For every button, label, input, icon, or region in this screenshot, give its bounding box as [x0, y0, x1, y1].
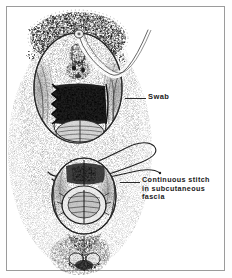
figure-page: Swab Continuous stitch in subcutaneous f…: [0, 0, 232, 278]
annotation-label-swab: Swab: [148, 92, 169, 101]
swab-leader-line: [125, 98, 146, 99]
annotation-label-continuous-stitch: Continuous stitch in subcutaneous fascia: [142, 176, 210, 202]
surgical-illustration: [0, 0, 232, 278]
illustration-ink: [8, 10, 161, 275]
continuous-stitch-leader-line: [120, 182, 140, 183]
stipple-overlay: [20, 10, 140, 230]
